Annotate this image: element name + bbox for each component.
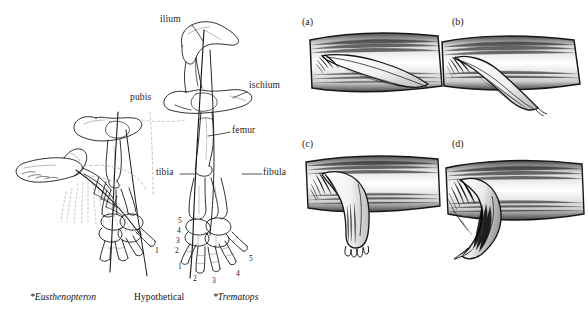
leader-femur xyxy=(208,132,230,136)
label-pubis: pubis xyxy=(130,92,151,102)
label-ilium: ilium xyxy=(160,14,181,24)
digit-hypothetical-5: 5 xyxy=(178,216,182,225)
leader-pubis xyxy=(175,105,191,110)
leader-ischium xyxy=(233,92,247,98)
digit-hypothetical-1: 1 xyxy=(155,246,159,255)
panel-c-artwork xyxy=(304,148,444,258)
digit-trematops-4: 4 xyxy=(236,269,240,278)
left-diagram-pelvic-limb-series: ilium ischium pubis femur tibia fibula 5… xyxy=(0,0,294,315)
figure-page: ilium ischium pubis femur tibia fibula 5… xyxy=(0,0,588,315)
left-diagram-artwork xyxy=(0,0,294,290)
taxon-trematops: *Trematops xyxy=(213,292,259,302)
panel-b-artwork xyxy=(440,30,584,116)
panel-a-artwork xyxy=(306,26,446,104)
digit-trematops-5: 5 xyxy=(249,254,253,263)
label-tibia: tibia xyxy=(156,167,174,177)
digit-trematops-2: 2 xyxy=(193,274,197,283)
digit-hypothetical-2: 2 xyxy=(175,246,179,255)
label-femur: femur xyxy=(232,125,255,135)
panel-label-d: (d) xyxy=(452,138,464,149)
taxon-eusthenopteron: *Eusthenopteron xyxy=(30,292,96,302)
label-fibula: fibula xyxy=(263,167,286,177)
digit-hypothetical-4: 4 xyxy=(177,226,181,235)
panel-label-b: (b) xyxy=(452,16,464,27)
label-ischium: ischium xyxy=(249,80,280,90)
digit-trematops-3: 3 xyxy=(212,276,216,285)
right-diagram-limb-postures: (a) xyxy=(294,0,588,315)
digit-hypothetical-3: 3 xyxy=(176,236,180,245)
panel-d-artwork xyxy=(438,152,586,262)
digit-trematops-1: 1 xyxy=(178,262,182,271)
leader-ilium xyxy=(192,25,203,41)
taxon-hypothetical: Hypothetical xyxy=(134,292,184,302)
